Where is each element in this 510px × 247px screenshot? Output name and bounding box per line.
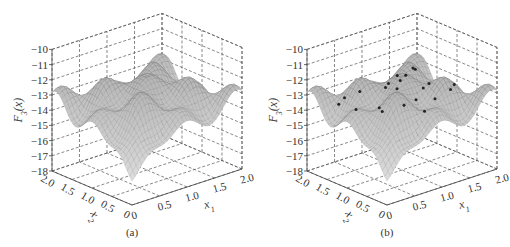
z-tick-label: −11 xyxy=(286,59,303,71)
grid-line-floor-y xyxy=(347,152,457,188)
sample-point xyxy=(337,103,340,106)
sample-point xyxy=(403,104,406,107)
x2-axis-label-sub: 2 xyxy=(341,217,351,224)
x2-ticks: 00.51.01.52.0 xyxy=(294,172,388,221)
z-tick-label: −10 xyxy=(286,43,304,55)
z-tick-label: −15 xyxy=(31,119,49,131)
x1-tick-label: 1.5 xyxy=(211,179,228,194)
x1-tick-label: 1.5 xyxy=(466,179,483,194)
z-tick-label: −12 xyxy=(31,74,48,86)
chart-panel-a: −10−11−12−13−14−15−16−17−18F3(x)00.51.01… xyxy=(0,0,255,247)
z-tick-label: −15 xyxy=(286,119,304,131)
x1-ticks: 00.51.01.52.0 xyxy=(130,170,255,221)
sample-point xyxy=(399,79,402,82)
z-tick-label: −16 xyxy=(286,135,304,147)
sample-point xyxy=(396,74,399,77)
panel-caption: (a) xyxy=(126,226,139,239)
x2-tick-label: 1.5 xyxy=(314,180,332,198)
sample-point xyxy=(412,66,415,69)
z-axis-label-arg: (x) xyxy=(11,98,25,111)
x1-tick-label: 2.0 xyxy=(239,170,255,185)
sample-point xyxy=(449,88,452,91)
grid-line-z xyxy=(307,29,497,65)
surface-plot-b: −10−11−12−13−14−15−16−17−18F3(x)00.51.01… xyxy=(255,0,510,247)
z-tick-label: −14 xyxy=(286,104,304,116)
box-edge-top xyxy=(307,13,497,49)
sample-point xyxy=(415,98,418,101)
z-ticks: −10−11−12−13−14−15−16−17−18 xyxy=(31,43,52,177)
surface-mesh xyxy=(52,54,242,181)
z-tick-label: −17 xyxy=(286,150,304,162)
z-tick-label: −11 xyxy=(31,59,48,71)
z-tick-label: −13 xyxy=(286,89,304,101)
sample-point xyxy=(423,110,426,113)
sample-point xyxy=(428,82,431,85)
chart-panel-b: −10−11−12−13−14−15−16−17−18F3(x)00.51.01… xyxy=(255,0,510,247)
sample-point xyxy=(355,108,358,111)
surface-mesh xyxy=(307,54,497,181)
z-axis-label: F3(x) xyxy=(11,98,29,124)
sample-point xyxy=(381,110,384,113)
grid-line-floor-y xyxy=(92,152,202,188)
sample-point xyxy=(387,82,390,85)
x2-axis-label: x2 xyxy=(84,208,104,225)
z-ticks: −10−11−12−13−14−15−16−17−18 xyxy=(286,43,307,177)
z-axis-label: F3(x) xyxy=(266,98,284,124)
grid-line-z xyxy=(307,13,497,49)
z-tick-label: −12 xyxy=(286,74,303,86)
sample-point xyxy=(434,97,437,100)
sample-point xyxy=(343,96,346,99)
panel-caption: (b) xyxy=(381,226,394,239)
x1-axis-label-sub: 1 xyxy=(209,204,215,214)
z-tick-label: −16 xyxy=(31,135,49,147)
sample-point xyxy=(378,106,381,109)
sample-point xyxy=(404,74,407,77)
x1-tick-label: 2.0 xyxy=(494,170,510,185)
grid-line-z xyxy=(52,13,242,49)
x1-axis-label: x1 xyxy=(456,196,471,216)
sample-point xyxy=(453,83,456,86)
grid-line-floor-x xyxy=(80,162,160,196)
z-tick-label: −14 xyxy=(31,104,49,116)
x1-tick-label: 0.5 xyxy=(156,197,173,212)
surface-plot-a: −10−11−12−13−14−15−16−17−18F3(x)00.51.01… xyxy=(0,0,255,247)
x1-tick-label: 1.0 xyxy=(184,188,201,203)
x2-axis-label-sub: 2 xyxy=(86,217,96,224)
x2-axis-label: x2 xyxy=(339,208,359,225)
x1-tick-label: 1.0 xyxy=(439,188,456,203)
grid-line-floor-x xyxy=(335,162,415,196)
x1-axis-label: x1 xyxy=(201,196,216,216)
sample-point xyxy=(384,86,387,89)
x2-ticks: 00.51.01.52.0 xyxy=(39,172,133,221)
x2-tick-label: 1.0 xyxy=(79,189,97,207)
x2-tick-label: 1.5 xyxy=(59,180,77,198)
box-edge-top xyxy=(52,13,242,49)
x2-tick-label: 1.0 xyxy=(334,189,352,207)
z-tick-label: −17 xyxy=(31,150,49,162)
z-tick-label: −13 xyxy=(31,89,49,101)
sample-point xyxy=(422,86,425,89)
sample-point xyxy=(396,87,399,90)
x1-tick-label: 0.5 xyxy=(411,197,428,212)
x1-ticks: 00.51.01.52.0 xyxy=(385,170,510,221)
x1-axis-label-sub: 1 xyxy=(464,204,470,214)
sample-point xyxy=(358,90,361,93)
z-axis-label-arg: (x) xyxy=(266,98,280,111)
grid-line-z xyxy=(52,29,242,65)
z-tick-label: −10 xyxy=(31,43,49,55)
